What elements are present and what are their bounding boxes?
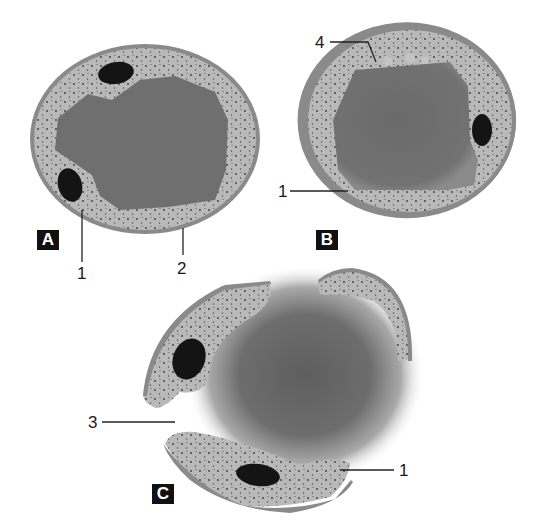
nucleus bbox=[472, 114, 492, 146]
panel-c-ruptured-cell bbox=[143, 265, 425, 513]
panel-badge-a: A bbox=[37, 230, 59, 250]
panel-a-cell bbox=[30, 44, 260, 234]
callout-b-4: 4 bbox=[315, 34, 324, 51]
callout-c-3: 3 bbox=[88, 414, 97, 431]
callout-a-1: 1 bbox=[77, 265, 86, 282]
panel-b-cell bbox=[298, 22, 516, 218]
panel-badge-c: C bbox=[152, 484, 174, 504]
callout-a-2: 2 bbox=[177, 260, 186, 277]
callout-b-1: 1 bbox=[278, 183, 287, 200]
panel-badge-b: B bbox=[316, 230, 338, 250]
callout-c-1: 1 bbox=[399, 462, 408, 479]
